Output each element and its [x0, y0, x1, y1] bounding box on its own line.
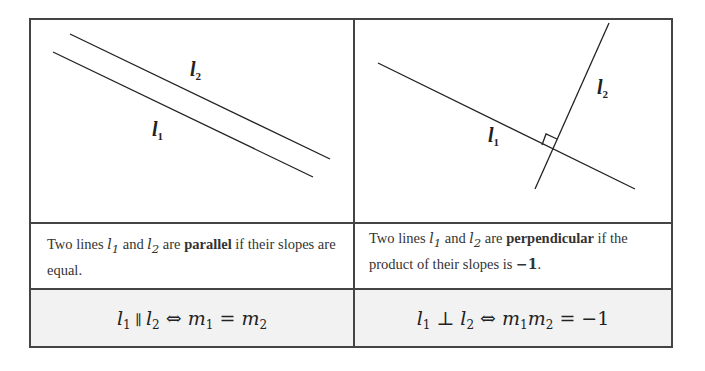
text: Two lines	[47, 236, 107, 252]
term-perpendicular: perpendicular	[506, 230, 594, 246]
text: are	[159, 236, 184, 252]
text: Two lines	[369, 230, 429, 246]
parallel-description: Two lines l1 and l2 are parallel if thei…	[31, 224, 353, 288]
perpendicular-formula: l1 ⊥ l2 ⇔ m1m2 = −1	[355, 290, 671, 346]
perpendicular-description: Two lines l1 and l2 are perpendicular if…	[355, 224, 671, 288]
math-l1: l1	[429, 230, 441, 246]
text: and	[441, 230, 469, 246]
value-minus-one: −1	[516, 256, 537, 272]
text: .	[537, 256, 541, 272]
math-l2: l2	[147, 236, 159, 252]
lines-comparison-table: Two lines l1 and l2 are parallel if thei…	[29, 18, 673, 348]
text: are	[481, 230, 506, 246]
text: and	[119, 236, 147, 252]
math-l1: l1	[107, 236, 119, 252]
term-parallel: parallel	[184, 236, 232, 252]
math-l2: l2	[469, 230, 481, 246]
parallel-formula: l1 ∥ l2 ⇔ m1 = m2	[31, 290, 353, 346]
